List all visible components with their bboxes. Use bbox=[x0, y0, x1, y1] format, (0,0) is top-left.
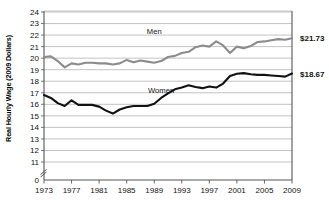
end-value-label-men: $21.73 bbox=[300, 34, 325, 43]
x-tick-label: 1989 bbox=[145, 186, 163, 195]
y-tick-label: 15 bbox=[30, 112, 39, 121]
x-tick-label: 1981 bbox=[90, 186, 108, 195]
series-line-men bbox=[44, 38, 292, 67]
y-tick-label: 22 bbox=[30, 31, 39, 40]
end-value-label-women: $18.67 bbox=[300, 70, 325, 79]
x-tick-label: 1985 bbox=[118, 186, 136, 195]
x-tick-label: 2001 bbox=[228, 186, 246, 195]
y-tick-label-zero: 0 bbox=[35, 176, 40, 185]
y-tick-label: 14 bbox=[30, 123, 39, 132]
y-tick-label: 21 bbox=[30, 43, 39, 52]
x-tick-label: 1973 bbox=[35, 186, 53, 195]
chart-container: Real Hourly Wage (2009 Dollars) 11121314… bbox=[0, 0, 329, 207]
y-tick-label: 20 bbox=[30, 54, 39, 63]
x-axis-ticks-group: 1973197719811985198919931997200120052009 bbox=[35, 180, 301, 195]
y-tick-label: 24 bbox=[30, 8, 39, 17]
y-tick-label: 18 bbox=[30, 77, 39, 86]
y-tick-label: 11 bbox=[31, 158, 40, 167]
y-tick-label: 13 bbox=[30, 135, 39, 144]
y-tick-label: 16 bbox=[30, 100, 39, 109]
y-tick-label: 17 bbox=[30, 89, 39, 98]
x-tick-label: 1977 bbox=[63, 186, 81, 195]
y-axis-ticks-group: 11121314151617181920212223240 bbox=[30, 8, 44, 185]
series-label-men: Men bbox=[147, 27, 162, 36]
y-tick-label: 12 bbox=[30, 146, 39, 155]
data-series-group bbox=[44, 38, 292, 113]
end-value-labels-group: $21.73$18.67 bbox=[300, 34, 325, 78]
series-label-women: Women bbox=[148, 86, 174, 95]
x-tick-label: 1993 bbox=[173, 186, 191, 195]
line-chart-plot: 11121314151617181920212223240 1973197719… bbox=[0, 0, 329, 207]
x-tick-label: 2005 bbox=[256, 186, 274, 195]
y-tick-label: 19 bbox=[30, 66, 39, 75]
x-tick-label: 1997 bbox=[200, 186, 218, 195]
y-tick-label: 23 bbox=[30, 19, 39, 28]
x-tick-label: 2009 bbox=[283, 186, 301, 195]
